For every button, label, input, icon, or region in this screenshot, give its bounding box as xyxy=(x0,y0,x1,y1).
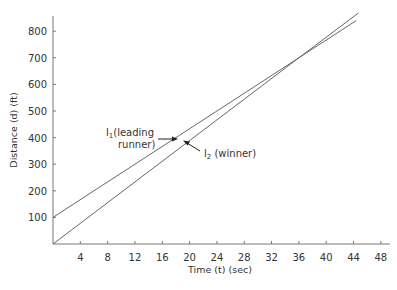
y-tick-label: 800 xyxy=(28,26,47,37)
l2-arrow xyxy=(187,143,200,151)
l2-label-rest: (winner) xyxy=(211,148,256,159)
x-tick-label: 20 xyxy=(183,252,196,263)
x-tick-label: 28 xyxy=(238,252,251,263)
line-l1-leading-runner xyxy=(53,21,356,218)
x-tick-label: 12 xyxy=(129,252,142,263)
y-tick-label: 200 xyxy=(28,186,47,197)
x-tick-label: 4 xyxy=(77,252,83,263)
l1-label-line2: runner) xyxy=(118,139,155,150)
y-tick-label: 300 xyxy=(28,159,47,170)
series-lines xyxy=(53,13,358,244)
svg-text:l2 (winner): l2 (winner) xyxy=(204,148,256,161)
y-tick-label: 500 xyxy=(28,106,47,117)
x-axis-label: Time (t) (sec) xyxy=(187,264,252,275)
y-tick-label: 600 xyxy=(28,79,47,90)
y-ticks: 100200300400500600700800 xyxy=(28,26,56,223)
y-tick-label: 700 xyxy=(28,53,47,64)
l1-label-rest: (leading xyxy=(113,127,154,138)
y-tick-label: 400 xyxy=(28,133,47,144)
x-tick-label: 36 xyxy=(293,252,306,263)
annotation-l1: l1(leading runner) xyxy=(106,127,178,150)
line-l2-winner xyxy=(53,13,358,244)
y-tick-label: 100 xyxy=(28,212,47,223)
x-tick-label: 44 xyxy=(347,252,360,263)
annotation-l2: l2 (winner) xyxy=(183,141,256,162)
x-tick-label: 16 xyxy=(156,252,169,263)
x-tick-label: 8 xyxy=(104,252,110,263)
x-tick-label: 48 xyxy=(374,252,387,263)
x-tick-label: 24 xyxy=(211,252,224,263)
chart: 100200300400500600700800 481216202428323… xyxy=(0,0,397,290)
y-axis-label: Distance (d) (ft) xyxy=(8,92,19,167)
x-tick-label: 40 xyxy=(320,252,333,263)
x-tick-label: 32 xyxy=(265,252,278,263)
axes xyxy=(53,16,390,244)
